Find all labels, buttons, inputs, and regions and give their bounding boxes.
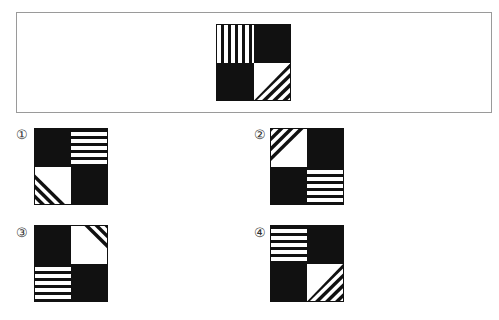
option-label-3: ③ [16,226,28,239]
option-label-2: ② [254,128,266,141]
cell-black [271,167,307,205]
cell-horizontal-stripes [307,167,343,205]
cell-black [254,25,291,63]
cell-diagonal-bottom-right [307,264,343,302]
cell-vertical-stripes [217,25,254,63]
option-4-figure[interactable] [270,225,344,302]
cell-horizontal-stripes [271,226,307,264]
option-3-figure[interactable] [34,225,108,302]
cell-black [71,264,107,302]
option-label-4: ④ [254,226,266,239]
cell-black [71,167,107,205]
cell-horizontal-stripes [71,129,107,167]
cell-horizontal-stripes [35,264,71,302]
cell-black [307,129,343,167]
cell-diagonal-bottom-right [254,63,291,101]
option-2-figure[interactable] [270,128,344,205]
cell-diagonal-top-right [71,226,107,264]
cell-black [35,129,71,167]
option-1-figure[interactable] [34,128,108,205]
cell-black [307,226,343,264]
option-label-1: ① [16,128,28,141]
cell-black [35,226,71,264]
question-figure [216,24,291,101]
cell-diagonal-top-left [271,129,307,167]
cell-black [271,264,307,302]
cell-diagonal-bottom-left [35,167,71,205]
cell-black [217,63,254,101]
